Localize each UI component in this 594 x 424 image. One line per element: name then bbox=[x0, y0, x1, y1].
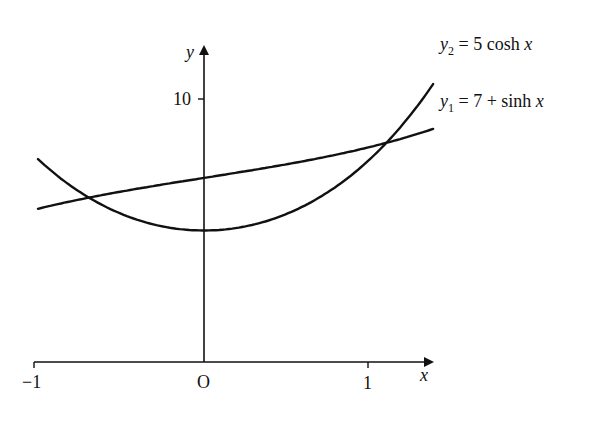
curve-y2-cosh bbox=[38, 84, 433, 230]
x-tick-label-1: 1 bbox=[363, 373, 372, 393]
curve-y1-sinh-line bbox=[38, 129, 433, 209]
graph-figure: y x O −1 1 10 y2 = 5 cosh x y1 = 7 + sin… bbox=[0, 0, 594, 424]
curve-label-y1: y1 = 7 + sinh x bbox=[438, 91, 544, 115]
y-tick-label-10: 10 bbox=[173, 89, 191, 109]
x-tick-label-minus1: −1 bbox=[22, 372, 41, 392]
x-axis-label: x bbox=[419, 365, 428, 385]
curve-label-y2: y2 = 5 cosh x bbox=[438, 34, 532, 58]
origin-label: O bbox=[197, 372, 210, 392]
y-axis-label: y bbox=[184, 42, 194, 62]
